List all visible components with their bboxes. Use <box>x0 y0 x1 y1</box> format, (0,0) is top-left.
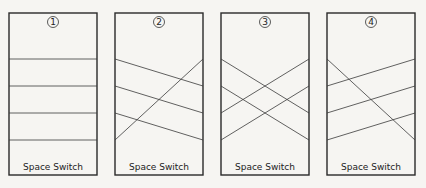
connection-line <box>327 113 415 140</box>
panel-1-frame <box>9 13 97 175</box>
panel-2: 2 Space Switch <box>115 13 203 175</box>
connection-line <box>327 86 415 113</box>
panel-2-number: 2 <box>156 17 162 27</box>
panel-4-number: 4 <box>368 17 374 27</box>
panel-4-connections <box>327 59 415 140</box>
panel-2-connections <box>115 59 203 140</box>
panel-3-connections <box>221 59 309 140</box>
connection-line <box>115 59 203 86</box>
connection-line <box>327 59 415 86</box>
panel-1: 1 Space Switch <box>9 13 97 175</box>
connection-line <box>115 113 203 140</box>
panel-2-frame <box>115 13 203 175</box>
space-switch-diagram: 1 Space Switch 2 Space Switch 3 <box>0 0 426 188</box>
panel-1-connections <box>9 59 97 140</box>
connection-line <box>115 59 203 140</box>
panel-4: 4 Space Switch <box>327 13 415 175</box>
panel-4-label: Space Switch <box>341 162 401 172</box>
panel-4-frame <box>327 13 415 175</box>
panel-1-label: Space Switch <box>23 162 83 172</box>
panel-3: 3 Space Switch <box>221 13 309 175</box>
panel-1-number: 1 <box>50 17 56 27</box>
panel-3-label: Space Switch <box>235 162 295 172</box>
panel-3-number: 3 <box>262 17 268 27</box>
panel-2-label: Space Switch <box>129 162 189 172</box>
